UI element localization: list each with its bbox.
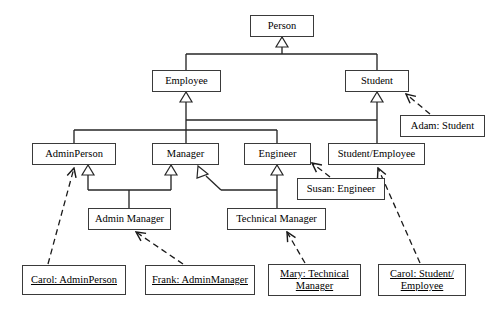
triangle-student-top <box>371 92 383 102</box>
generalization-employee-children <box>74 102 377 143</box>
class-label-employee: Employee <box>165 75 208 87</box>
class-label-student-employee: Student/Employee <box>338 148 416 160</box>
class-node-admin-manager[interactable]: Admin Manager <box>88 208 171 230</box>
object-label-carol-adminperson: Carol: AdminPerson <box>31 274 117 286</box>
class-node-student[interactable]: Student <box>345 70 409 92</box>
generalization-technicalmanager <box>206 175 277 208</box>
class-node-student-employee[interactable]: Student/Employee <box>328 143 425 165</box>
object-node-mary[interactable]: Mary: Technical Manager <box>268 264 361 296</box>
instance-link-adam-student <box>406 94 430 114</box>
class-node-technical-manager[interactable]: Technical Manager <box>227 208 326 230</box>
generalization-adminmanager <box>88 175 171 208</box>
object-label-susan: Susan: Engineer <box>307 183 376 195</box>
class-label-engineer: Engineer <box>259 148 297 160</box>
instance-link-mary-technicalmanager <box>287 232 305 263</box>
class-label-person: Person <box>268 20 297 32</box>
triangle-employee-top <box>180 92 192 102</box>
triangle-person <box>276 37 288 47</box>
class-node-employee[interactable]: Employee <box>152 70 221 92</box>
object-label-frank: Frank: AdminManager <box>152 274 248 286</box>
class-label-manager: Manager <box>167 148 204 160</box>
triangle-manager-bottom-left <box>165 165 177 175</box>
triangle-adminperson-bottom <box>82 165 94 175</box>
object-label-mary: Mary: Technical Manager <box>280 268 349 292</box>
instance-link-carol-adminperson <box>48 168 74 264</box>
object-label-carol-studentemployee: Carol: Student/ Employee <box>390 268 454 292</box>
object-node-carol-adminperson[interactable]: Carol: AdminPerson <box>22 265 126 295</box>
uml-class-diagram: Person Employee Student AdminPerson Mana… <box>0 0 501 313</box>
class-node-person[interactable]: Person <box>250 15 314 37</box>
class-label-student: Student <box>361 75 393 87</box>
class-node-adminperson[interactable]: AdminPerson <box>32 143 116 165</box>
class-node-engineer[interactable]: Engineer <box>244 143 311 165</box>
object-node-susan[interactable]: Susan: Engineer <box>297 178 385 200</box>
class-node-manager[interactable]: Manager <box>152 143 219 165</box>
object-node-frank[interactable]: Frank: AdminManager <box>145 265 255 295</box>
class-label-technical-manager: Technical Manager <box>236 213 317 225</box>
triangle-engineer-bottom <box>271 165 283 175</box>
object-node-adam[interactable]: Adam: Student <box>400 115 485 137</box>
class-label-adminperson: AdminPerson <box>45 148 103 160</box>
instance-link-susan-engineer <box>312 163 330 177</box>
object-node-carol-studentemployee[interactable]: Carol: Student/ Employee <box>378 264 466 296</box>
instance-link-frank-adminmanager <box>136 232 183 264</box>
object-label-adam: Adam: Student <box>411 120 474 132</box>
class-label-admin-manager: Admin Manager <box>95 213 164 225</box>
